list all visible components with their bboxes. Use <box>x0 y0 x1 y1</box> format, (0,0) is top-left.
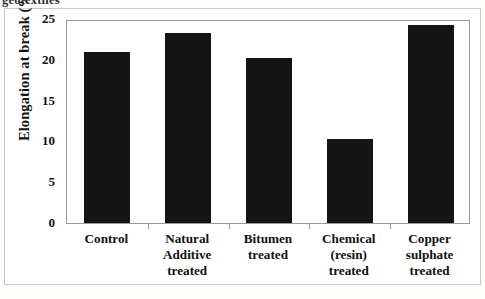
y-tick-label-text: 0 <box>49 216 56 229</box>
x-axis-category-line: treated <box>389 263 470 279</box>
bar <box>408 25 454 223</box>
x-axis-category-line: treated <box>308 263 389 279</box>
x-axis-category-label: Chemical(resin)treated <box>308 231 389 279</box>
x-axis-separator <box>148 223 149 229</box>
x-axis-category-label: Control <box>66 231 147 247</box>
x-axis-category-line: Chemical <box>308 231 389 247</box>
bar-chart: Elongation at break (%) 0510152025 Contr… <box>0 0 485 299</box>
y-tick-label-text: 5 <box>49 175 56 188</box>
plot-area <box>66 20 470 224</box>
bar <box>246 58 292 223</box>
bar <box>165 33 211 223</box>
x-axis-category-line: Additive <box>147 247 228 263</box>
x-axis-category-label: Bitumentreated <box>228 231 309 263</box>
x-axis-separator <box>390 223 391 229</box>
x-axis-category-line: Copper <box>389 231 470 247</box>
x-axis-category-line: treated <box>147 263 228 279</box>
x-axis-category-label: Coppersulphatetreated <box>389 231 470 279</box>
x-axis-category-label: NaturalAdditivetreated <box>147 231 228 279</box>
x-axis-category-line: (resin) <box>308 247 389 263</box>
y-tick-label-text: 10 <box>42 134 55 147</box>
y-tick-label-text: 15 <box>42 94 55 107</box>
x-axis-category-line: sulphate <box>389 247 470 263</box>
x-axis-category-line: Natural <box>147 231 228 247</box>
scanned-page: geotextiles Elongation at break (%) 0510… <box>0 0 485 299</box>
x-axis-separator <box>309 223 310 229</box>
x-axis-category-line: Control <box>66 231 147 247</box>
y-tick-label-text: 25 <box>42 12 55 25</box>
bar <box>84 52 130 223</box>
bar <box>327 139 373 223</box>
y-axis-label: Elongation at break (%) <box>16 0 33 165</box>
x-axis-labels: ControlNaturalAdditivetreatedBitumentrea… <box>66 231 470 291</box>
y-tick-label-text: 20 <box>42 53 55 66</box>
x-axis-category-line: treated <box>228 247 309 263</box>
x-axis-separator <box>229 223 230 229</box>
x-axis-category-line: Bitumen <box>228 231 309 247</box>
